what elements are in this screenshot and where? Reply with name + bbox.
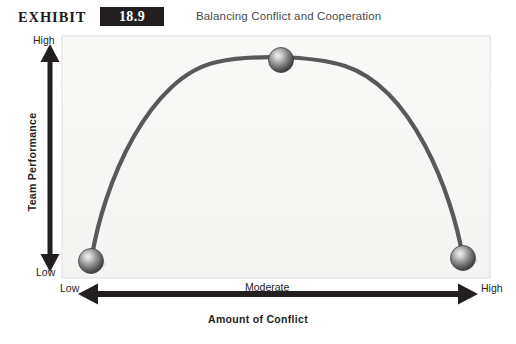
y-axis-title: Team Performance (26, 97, 38, 227)
y-axis-arrow (41, 44, 60, 272)
x-axis-high-label: High (481, 282, 503, 294)
x-axis-title: Amount of Conflict (0, 313, 516, 325)
data-point-moderate-conflict (269, 48, 294, 73)
y-axis-high-label: High (33, 34, 55, 46)
plot-panel (62, 36, 490, 278)
exhibit-figure: EXHIBIT 18.9 Balancing Conflict and Coop… (0, 0, 516, 344)
x-axis-low-label: Low (60, 282, 79, 294)
x-axis-moderate-label: Moderate (245, 281, 289, 293)
y-axis-low-label: Low (36, 266, 55, 278)
